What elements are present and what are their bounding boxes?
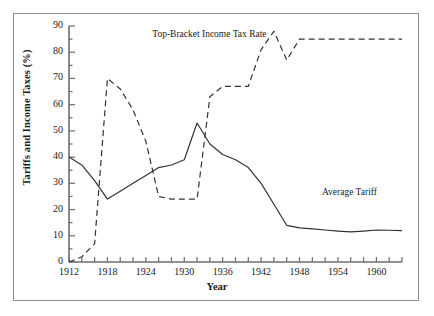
x-axis-tick-label: 1954 — [318, 266, 358, 277]
x-axis-tick-label: 1930 — [164, 266, 204, 277]
x-axis-tick-label: 1942 — [241, 266, 281, 277]
x-axis-tick-label: 1912 — [49, 266, 89, 277]
y-axis-tick-label: 60 — [37, 98, 63, 109]
series-line-2 — [69, 123, 402, 232]
series-annotation-2: Average Tariff — [322, 187, 377, 197]
y-axis-tick-label: 10 — [37, 229, 63, 240]
y-axis-tick-label: 30 — [37, 176, 63, 187]
y-axis-tick-label: 70 — [37, 71, 63, 82]
x-axis-tick-label: 1948 — [280, 266, 320, 277]
y-axis-tick-label: 40 — [37, 150, 63, 161]
chart-figure: Tariffs and Income Taxes (%) Year 010203… — [0, 0, 434, 316]
y-axis-tick-label: 20 — [37, 203, 63, 214]
x-axis-title: Year — [0, 281, 434, 292]
x-axis-tick-label: 1924 — [126, 266, 166, 277]
y-axis-title: Tariffs and Income Taxes (%) — [21, 0, 32, 238]
x-axis-tick-label: 1936 — [203, 266, 243, 277]
y-axis-tick-label: 90 — [37, 19, 63, 30]
series-annotation-1: Top-Bracket Income Tax Rate — [152, 29, 266, 39]
x-axis-tick-label: 1960 — [356, 266, 396, 277]
x-axis-tick-label: 1918 — [87, 266, 127, 277]
y-axis-tick-label: 80 — [37, 45, 63, 56]
series-line-1 — [69, 31, 402, 262]
y-axis-tick-label: 50 — [37, 124, 63, 135]
y-axis-tick-label: 0 — [37, 255, 63, 266]
